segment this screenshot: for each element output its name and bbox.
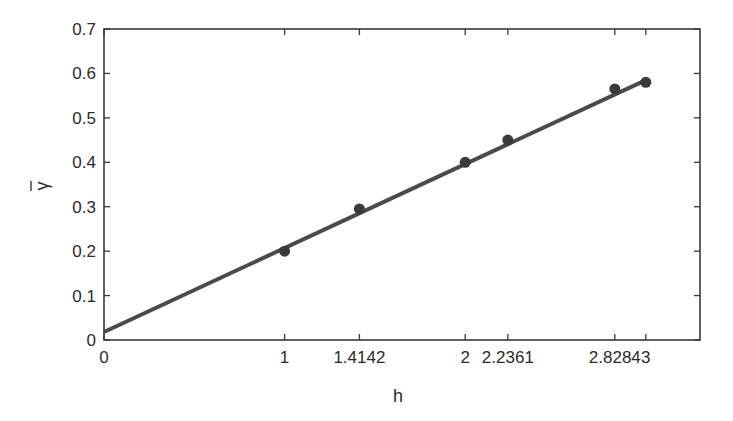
fit-line-path	[104, 80, 646, 332]
x-tick-label: 1.4142	[333, 348, 385, 367]
y-tick-label: 0	[87, 331, 96, 350]
y-tick-label: 0.2	[72, 242, 96, 261]
x-tick-label: 2	[460, 348, 469, 367]
data-point-marker	[354, 203, 365, 214]
chart: 011.414222.23612.82843 00.10.20.30.40.50…	[0, 0, 733, 421]
x-axis-label: h	[393, 386, 403, 406]
y-tick-label: 0.6	[72, 64, 96, 83]
x-tick-label: 2.2361	[482, 348, 534, 367]
x-tick-label: 3	[641, 348, 650, 367]
y-tick-label: 0.1	[72, 287, 96, 306]
y-tick-label: 0.5	[72, 109, 96, 128]
y-tick-label: 0.4	[72, 153, 96, 172]
x-tick-label: 2.8284	[589, 348, 641, 367]
data-point-marker	[640, 77, 651, 88]
x-axis-ticks: 011.414222.23612.82843	[99, 29, 650, 367]
y-tick-label: 0.3	[72, 198, 96, 217]
data-point-marker	[502, 135, 513, 146]
y-tick-label: 0.7	[72, 20, 96, 39]
y-axis-label: γ	[31, 181, 52, 191]
x-tick-label: 1	[280, 348, 289, 367]
y-axis-ticks: 00.10.20.30.40.50.60.7	[72, 20, 700, 350]
data-point-marker	[609, 83, 620, 94]
y-axis-label-text: γ	[32, 182, 52, 191]
data-point-marker	[460, 157, 471, 168]
x-tick-label: 0	[99, 348, 108, 367]
axes-frame	[104, 29, 700, 340]
fit-line	[104, 80, 646, 332]
data-point-marker	[279, 246, 290, 257]
